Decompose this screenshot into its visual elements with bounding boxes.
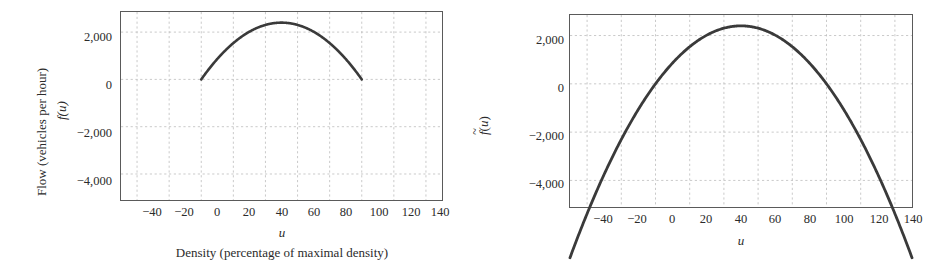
left-plot-area: [120, 11, 443, 201]
right-ytick-n2000: −2,000: [492, 130, 564, 143]
left-y-axis-title-outer: Flow (vehicles per hour): [34, 68, 50, 196]
left-xtick-4: 40: [276, 206, 289, 219]
figure-container: Flow (vehicles per hour) f(u) 2,000 0 −2…: [0, 0, 944, 279]
left-xtick-9: 140: [431, 206, 450, 219]
left-xtick-1: −20: [174, 206, 194, 219]
left-xtick-5: 60: [308, 206, 321, 219]
right-xtick-6: 80: [804, 213, 817, 226]
right-xtick-8: 120: [870, 213, 889, 226]
left-ytick-n2000: −2,000: [60, 127, 112, 140]
right-xtick-5: 60: [769, 213, 782, 226]
left-x-axis-title-inner: u: [279, 225, 286, 241]
left-xtick-0: −40: [142, 206, 162, 219]
left-xtick-6: 80: [340, 206, 353, 219]
right-x-axis-title-inner: u: [738, 233, 745, 249]
left-y-axis-title-inner: f(u): [54, 101, 70, 120]
right-xtick-9: 140: [904, 213, 923, 226]
right-ytick-n4000: −4,000: [492, 178, 564, 191]
right-plot-area: [569, 14, 913, 208]
chart-panel-left: Flow (vehicles per hour) f(u) 2,000 0 −2…: [0, 0, 472, 279]
left-ytick-n4000: −4,000: [60, 175, 112, 188]
chart-panel-right: ~f(u) 2,000 0 −2,000 −4,000 −40 −20 0 20…: [472, 0, 944, 279]
right-y-axis-title-inner: ~f(u): [476, 116, 492, 135]
left-xtick-3: 20: [243, 206, 256, 219]
left-xtick-2: 0: [214, 206, 220, 219]
right-xtick-1: −20: [627, 213, 647, 226]
right-xtick-3: 20: [700, 213, 713, 226]
right-ytick-2000: 2,000: [492, 34, 564, 47]
right-curve: [570, 15, 912, 207]
left-ytick-2000: 2,000: [60, 31, 112, 44]
left-curve: [121, 12, 442, 200]
left-x-axis-title-outer: Density (percentage of maximal density): [176, 245, 388, 261]
right-xtick-2: 0: [669, 213, 675, 226]
left-ytick-0: 0: [60, 79, 112, 92]
right-ytick-0: 0: [492, 82, 564, 95]
left-xtick-7: 100: [370, 206, 389, 219]
right-xtick-4: 40: [735, 213, 748, 226]
left-xtick-8: 120: [402, 206, 421, 219]
right-xtick-7: 100: [835, 213, 854, 226]
right-xtick-0: −40: [593, 213, 613, 226]
